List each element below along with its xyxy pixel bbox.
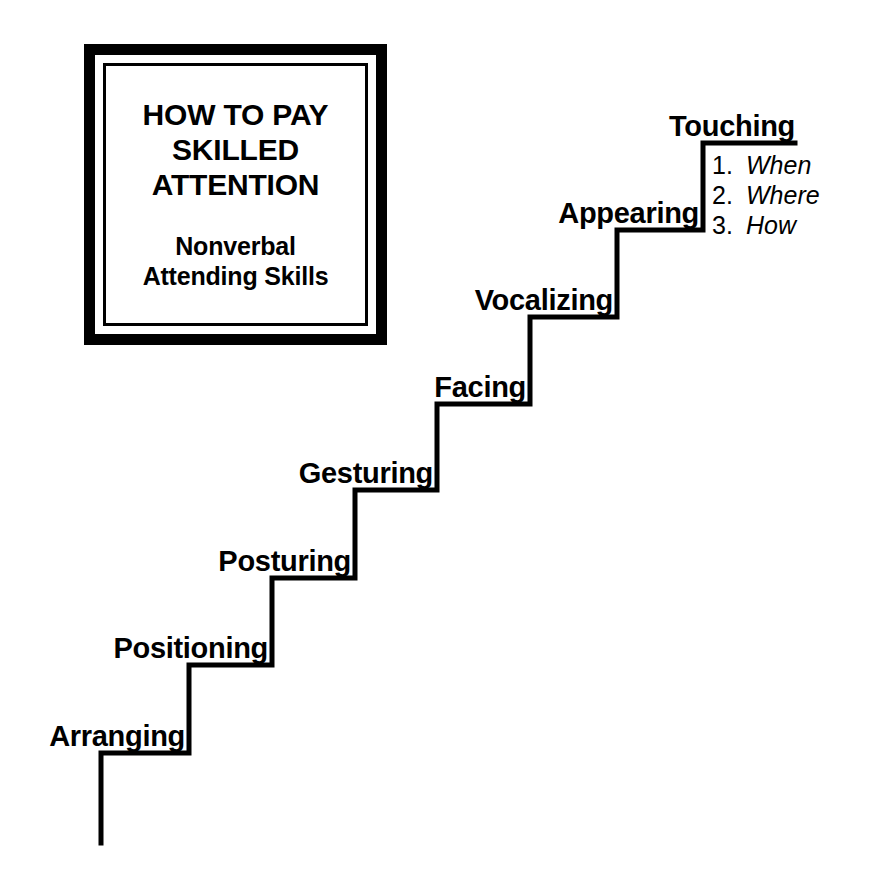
step-label-facing: Facing bbox=[434, 373, 526, 402]
step-label-arranging: Arranging bbox=[49, 722, 185, 751]
substep-item-3: 3. How bbox=[712, 210, 862, 240]
step-label-gesturing: Gesturing bbox=[299, 459, 433, 488]
step-label-posturing: Posturing bbox=[218, 547, 351, 576]
step-label-positioning: Positioning bbox=[113, 634, 268, 663]
substep-text-3: How bbox=[746, 210, 796, 240]
substep-item-1: 1. When bbox=[712, 150, 862, 180]
substep-text-1: When bbox=[746, 150, 811, 180]
substep-item-2: 2. Where bbox=[712, 180, 862, 210]
substep-text-2: Where bbox=[746, 180, 820, 210]
staircase-polyline bbox=[101, 143, 795, 843]
diagram-canvas: HOW TO PAY SKILLED ATTENTION Nonverbal A… bbox=[0, 0, 871, 880]
step-label-appearing: Appearing bbox=[558, 199, 699, 228]
substep-number-3: 3. bbox=[712, 210, 746, 240]
substep-number-2: 2. bbox=[712, 180, 746, 210]
substep-number-1: 1. bbox=[712, 150, 746, 180]
step-label-touching: Touching bbox=[669, 112, 795, 141]
substep-list: 1. When 2. Where 3. How bbox=[712, 150, 862, 240]
step-label-vocalizing: Vocalizing bbox=[475, 286, 613, 315]
